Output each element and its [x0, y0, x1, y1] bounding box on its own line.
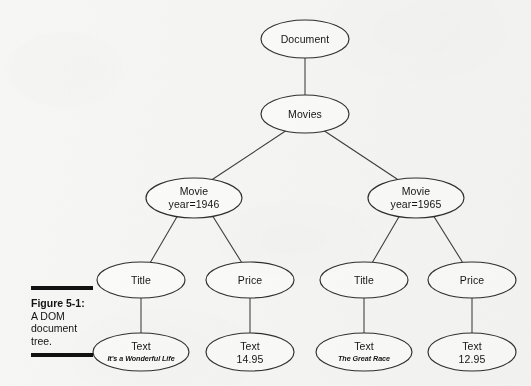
node-title-right[interactable]: Title	[320, 262, 408, 298]
figure-caption: Figure 5-1: A DOM document tree.	[31, 286, 99, 357]
node-movies-label: Movies	[288, 108, 322, 120]
node-text-title-left-value: It's a Wonderful Life	[107, 354, 174, 363]
edge-movies-movie1965	[323, 130, 400, 181]
edge-movie1965-title	[372, 215, 400, 263]
node-movie-1946-attribute: year=1946	[169, 198, 220, 210]
edge-movie1946-price	[212, 215, 242, 263]
edge-movie1946-title	[150, 215, 178, 263]
node-price-right[interactable]: Price	[428, 262, 516, 298]
caption-body: A DOM document tree.	[31, 310, 97, 348]
node-title-left-label: Title	[131, 274, 151, 286]
node-text-title-right-value: The Great Race	[338, 354, 390, 363]
node-movie-1965-label: Movie	[402, 185, 431, 197]
node-text-title-left-label: Text	[131, 340, 151, 352]
node-title-right-label: Title	[354, 274, 374, 286]
node-price-left-label: Price	[238, 274, 262, 286]
caption-rule-bottom	[31, 353, 93, 357]
caption-figure-number: Figure 5-1:	[31, 297, 97, 310]
caption-rule-top	[31, 286, 93, 290]
node-text-title-right-label: Text	[354, 340, 374, 352]
edge-movies-movie1946	[210, 130, 287, 181]
node-text-price-right-ellipse	[428, 333, 516, 371]
node-text-price-right-label: Text	[462, 340, 482, 352]
node-text-price-left[interactable]: Text 14.95	[206, 333, 294, 371]
node-text-title-left-ellipse	[93, 333, 189, 371]
figure-page: Document Movies Movie year=1946 Movie ye…	[0, 0, 531, 386]
node-title-left[interactable]: Title	[97, 262, 185, 298]
node-document[interactable]: Document	[261, 20, 349, 58]
node-document-label: Document	[281, 33, 330, 45]
node-movie-1946[interactable]: Movie year=1946	[146, 178, 242, 218]
caption-text: Figure 5-1: A DOM document tree.	[31, 297, 97, 347]
node-movie-1965[interactable]: Movie year=1965	[368, 178, 464, 218]
node-price-left[interactable]: Price	[206, 262, 294, 298]
node-text-price-right[interactable]: Text 12.95	[428, 333, 516, 371]
node-text-title-left[interactable]: Text It's a Wonderful Life	[93, 333, 189, 371]
edge-movie1965-price	[433, 215, 463, 263]
node-text-title-right[interactable]: Text The Great Race	[316, 333, 412, 371]
node-text-price-left-label: Text	[240, 340, 260, 352]
node-text-price-left-ellipse	[206, 333, 294, 371]
node-text-price-left-value: 14.95	[237, 353, 264, 365]
node-movie-1946-label: Movie	[180, 185, 209, 197]
node-price-right-label: Price	[460, 274, 484, 286]
node-movies[interactable]: Movies	[261, 95, 349, 133]
node-text-title-right-ellipse	[316, 333, 412, 371]
node-text-price-right-value: 12.95	[459, 353, 486, 365]
node-movie-1965-attribute: year=1965	[391, 198, 442, 210]
